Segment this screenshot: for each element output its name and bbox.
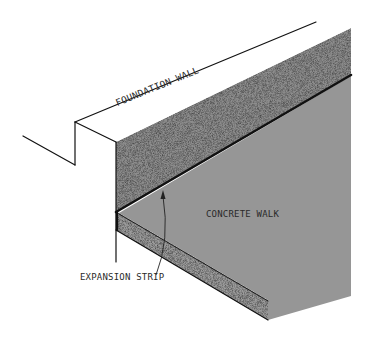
diagram-canvas: FOUNDATION WALL CONCRETE WALK EXPANSION … <box>0 0 370 348</box>
expansion-strip-label: EXPANSION STRIP <box>80 272 164 282</box>
construction-detail-drawing <box>0 0 370 348</box>
concrete-walk-label: CONCRETE WALK <box>206 209 279 219</box>
